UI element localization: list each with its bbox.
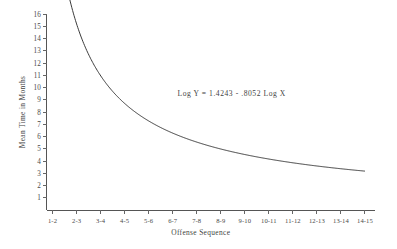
regression-equation: Log Y = 1.4243 - .8052 Log X bbox=[178, 89, 286, 98]
x-tick-label: 6-7 bbox=[168, 217, 178, 224]
x-tick-label: 10-11 bbox=[261, 217, 277, 224]
y-tick-label: 6 bbox=[37, 133, 41, 141]
y-tick-label: 14 bbox=[33, 35, 41, 43]
x-tick-label: 1-2 bbox=[48, 217, 57, 224]
chart-page: 12345678910111213141516 1-22-33-44-55-66… bbox=[0, 0, 397, 249]
x-tick-label: 14-15 bbox=[357, 217, 373, 224]
x-tick-label: 5-6 bbox=[144, 217, 154, 224]
y-tick-label: 7 bbox=[37, 121, 41, 129]
x-tick-label: 3-4 bbox=[96, 217, 106, 224]
x-tick-label: 12-13 bbox=[309, 217, 325, 224]
x-tick-label: 13-14 bbox=[333, 217, 349, 224]
y-tick-label: 4 bbox=[37, 158, 41, 166]
y-tick-label: 1 bbox=[37, 194, 41, 202]
y-tick-label: 12 bbox=[33, 60, 41, 68]
y-tick-label: 15 bbox=[33, 23, 41, 31]
chart-background bbox=[0, 0, 397, 249]
y-tick-label: 5 bbox=[37, 145, 41, 153]
y-tick-label: 2 bbox=[37, 182, 41, 190]
y-tick-label: 3 bbox=[37, 170, 41, 178]
y-tick-label: 13 bbox=[33, 47, 41, 55]
x-tick-label: 7-8 bbox=[192, 217, 202, 224]
x-tick-label: 11-12 bbox=[285, 217, 301, 224]
y-tick-label: 11 bbox=[34, 72, 42, 80]
x-tick-label: 8-9 bbox=[216, 217, 226, 224]
x-tick-label: 4-5 bbox=[120, 217, 130, 224]
x-axis-title: Offense Sequence bbox=[171, 228, 230, 237]
y-tick-label: 16 bbox=[33, 11, 41, 19]
y-tick-label: 10 bbox=[33, 84, 41, 92]
y-tick-label: 8 bbox=[37, 109, 41, 117]
y-tick-label: 9 bbox=[37, 96, 41, 104]
y-axis-title: Mean Time in Months bbox=[18, 76, 27, 149]
offense-sequence-chart: 12345678910111213141516 1-22-33-44-55-66… bbox=[0, 0, 397, 249]
x-tick-label: 2-3 bbox=[72, 217, 82, 224]
x-tick-label: 9-10 bbox=[239, 217, 252, 224]
